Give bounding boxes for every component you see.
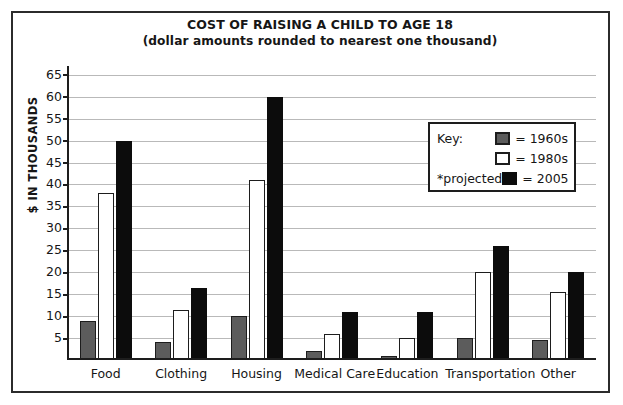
y-axis-tick-label: 15	[22, 288, 62, 300]
bar-transportation-2005	[493, 246, 509, 360]
legend-row-2005: *projected = 2005	[437, 168, 568, 188]
bar-group	[532, 66, 584, 360]
y-axis-tick-label: 20	[22, 266, 62, 278]
legend-equals-sign-2: =	[515, 151, 525, 166]
x-axis-label-transportation: Transportation	[445, 366, 520, 381]
bar-group	[381, 66, 433, 360]
gray-swatch-icon	[495, 132, 510, 145]
black-swatch-icon	[502, 172, 517, 185]
bar-other-2005	[568, 272, 584, 360]
bar-group	[306, 66, 358, 360]
bar-food-2005	[116, 141, 132, 360]
bar-housing-1980s	[249, 180, 265, 360]
x-axis-label-housing: Housing	[219, 366, 294, 381]
bar-transportation-1960s	[457, 338, 473, 360]
white-swatch-icon	[495, 152, 510, 165]
bar-group	[155, 66, 207, 360]
legend-label-1960s: 1960s	[530, 131, 568, 146]
legend-label-1980s: 1980s	[530, 151, 568, 166]
y-axis-tick-label: 5	[22, 332, 62, 344]
bar-other-1980s	[550, 292, 566, 360]
legend-label-2005: 2005	[537, 171, 569, 186]
x-axis-label-other: Other	[521, 366, 596, 381]
legend-row-1960s: Key: = 1960s	[437, 128, 568, 148]
chart-subtitle: (dollar amounts rounded to nearest one t…	[60, 33, 580, 49]
bar-group	[231, 66, 283, 360]
chart-title: COST OF RAISING A CHILD TO AGE 18	[60, 17, 580, 33]
legend-key-label: Key:	[437, 131, 495, 146]
bar-housing-2005	[267, 97, 283, 360]
bar-clothing-1980s	[173, 310, 189, 360]
plot-area: FoodClothingHousingMedical CareEducation…	[68, 66, 596, 360]
y-axis-tick-labels: 5101520253035404550556065	[18, 66, 62, 360]
bar-food-1960s	[80, 321, 96, 360]
bar-group	[80, 66, 132, 360]
chart-figure: COST OF RAISING A CHILD TO AGE 18 (dolla…	[0, 0, 623, 405]
bar-education-1980s	[399, 338, 415, 360]
x-axis-label-clothing: Clothing	[143, 366, 218, 381]
x-axis-label-medical-care: Medical Care	[294, 366, 369, 381]
bar-medical-care-2005	[342, 312, 358, 360]
legend-projected-note: *projected	[437, 171, 502, 186]
bar-housing-1960s	[231, 316, 247, 360]
x-axis-label-education: Education	[370, 366, 445, 381]
title-block: COST OF RAISING A CHILD TO AGE 18 (dolla…	[60, 17, 580, 49]
y-axis-tick-label: 10	[22, 310, 62, 322]
bar-clothing-2005	[191, 288, 207, 360]
bar-transportation-1980s	[475, 272, 491, 360]
y-axis-title: $ IN THOUSANDS	[26, 70, 40, 240]
bar-education-2005	[417, 312, 433, 360]
x-axis-label-food: Food	[68, 366, 143, 381]
bar-group	[457, 66, 509, 360]
y-axis-line	[67, 66, 69, 360]
legend-row-1980s: = 1980s	[437, 148, 568, 168]
legend-equals-sign-1: =	[515, 131, 525, 146]
x-axis-line	[68, 358, 596, 360]
bar-food-1980s	[98, 193, 114, 360]
legend-key-box: Key: = 1960s = 1980s *projected = 2005	[428, 122, 576, 192]
legend-equals-sign-3: =	[522, 171, 532, 186]
y-axis-tick-label: 25	[22, 244, 62, 256]
bar-medical-care-1980s	[324, 334, 340, 360]
